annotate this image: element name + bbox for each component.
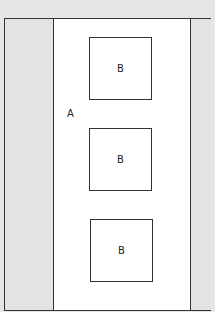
box-label: B xyxy=(118,245,125,256)
container-label: A xyxy=(67,108,74,119)
box-label: B xyxy=(117,154,124,165)
box-label: B xyxy=(117,63,124,74)
box-b-1: B xyxy=(89,37,152,100)
box-b-2: B xyxy=(89,128,152,191)
diagram-frame: A B B B xyxy=(4,18,211,311)
left-panel xyxy=(5,19,54,310)
right-panel xyxy=(190,19,211,310)
box-b-3: B xyxy=(90,219,153,282)
